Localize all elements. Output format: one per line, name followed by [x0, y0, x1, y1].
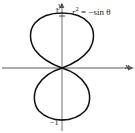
y-tick-label-negative-one: −1: [50, 119, 59, 127]
y-tick-label-positive-one: 1: [55, 8, 59, 16]
x-axis-label: x: [125, 62, 129, 71]
equation-right-side: −sin θ: [88, 7, 110, 17]
equation-annotation: r2 = −sin θ: [72, 8, 110, 17]
axes-group: [2, 3, 134, 132]
plot-canvas: [0, 0, 135, 133]
polar-plot-figure: y x 1 −1 r2 = −sin θ: [0, 0, 135, 133]
